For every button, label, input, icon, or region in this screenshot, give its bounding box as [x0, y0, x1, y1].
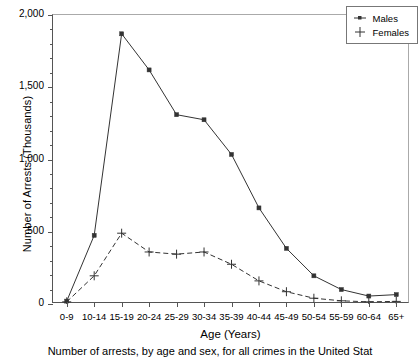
tick-mark: [50, 275, 53, 276]
data-point-females: [172, 250, 181, 259]
tick-mark: [50, 102, 53, 103]
data-point-males: [120, 32, 124, 36]
data-point-females: [145, 247, 154, 256]
tick-mark: [314, 302, 315, 307]
tick-mark: [177, 302, 178, 307]
tick-mark: [149, 302, 150, 307]
data-point-males: [92, 233, 96, 237]
y-axis-tick-label: 2,000: [19, 8, 44, 19]
tick-mark: [204, 302, 205, 307]
data-point-males: [312, 274, 316, 278]
tick-mark: [50, 261, 53, 262]
tick-mark: [50, 44, 53, 45]
legend-label: Males: [373, 13, 398, 24]
data-point-males: [394, 293, 398, 297]
tick-mark: [122, 302, 123, 307]
tick-mark: [50, 116, 53, 117]
tick-mark: [396, 302, 397, 307]
x-axis-tick-label: 65+: [372, 311, 420, 322]
data-point-females: [117, 229, 126, 238]
data-point-males: [230, 152, 234, 156]
x-axis-title: Age (Years): [52, 328, 409, 340]
chart-legend: MalesFemales: [346, 6, 418, 44]
data-point-males: [284, 246, 288, 250]
data-point-females: [282, 287, 291, 296]
tick-mark: [50, 246, 53, 247]
tick-mark: [67, 302, 68, 307]
tick-mark: [50, 29, 53, 30]
tick-mark: [50, 73, 53, 74]
y-axis-tick-label: 1,000: [19, 153, 44, 164]
dot-line-icon: [352, 12, 370, 24]
tick-mark: [48, 15, 53, 16]
data-point-males: [339, 288, 343, 292]
legend-item-females[interactable]: Females: [352, 25, 409, 39]
tick-mark: [341, 302, 342, 307]
figure-caption: Number of arrests, by age and sex, for a…: [0, 345, 420, 357]
data-point-females: [227, 260, 236, 269]
data-point-males: [147, 68, 151, 72]
tick-mark: [48, 304, 53, 305]
tick-mark: [50, 131, 53, 132]
tick-mark: [232, 302, 233, 307]
tick-mark: [94, 302, 95, 307]
tick-mark: [50, 203, 53, 204]
tick-mark: [50, 290, 53, 291]
tick-mark: [259, 302, 260, 307]
tick-mark: [369, 302, 370, 307]
tick-mark: [50, 174, 53, 175]
tick-mark: [50, 188, 53, 189]
legend-item-males[interactable]: Males: [352, 11, 409, 25]
tick-mark: [48, 232, 53, 233]
tick-mark: [48, 87, 53, 88]
plus-icon: [352, 26, 370, 38]
y-axis-tick-label: 0: [38, 297, 44, 308]
tick-mark: [50, 145, 53, 146]
legend-label: Females: [373, 27, 409, 38]
plot-area: 05001,0001,5002,0000-910-1415-1920-2425-…: [52, 14, 409, 303]
tick-mark: [286, 302, 287, 307]
tick-mark: [48, 160, 53, 161]
y-axis-tick-label: 500: [27, 225, 44, 236]
chart-canvas: [53, 15, 410, 304]
data-point-males: [175, 113, 179, 117]
data-point-females: [254, 276, 263, 285]
data-point-females: [200, 247, 209, 256]
tick-mark: [50, 58, 53, 59]
data-point-males: [257, 206, 261, 210]
y-axis-tick-label: 1,500: [19, 80, 44, 91]
tick-mark: [50, 217, 53, 218]
data-point-males: [202, 118, 206, 122]
